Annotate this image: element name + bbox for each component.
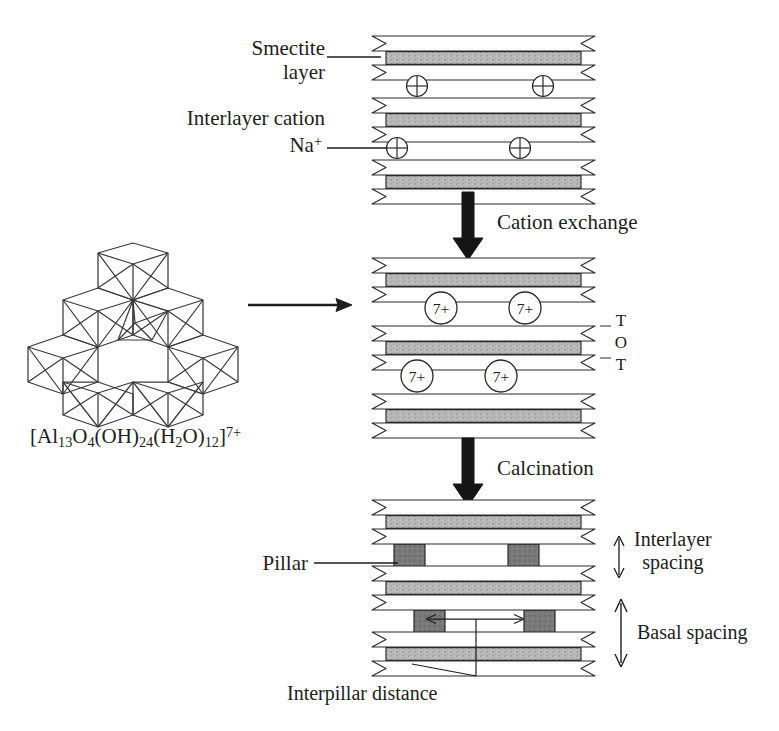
interlayer-cation-marker: [510, 138, 531, 159]
sodium-cation-label: Na+: [210, 133, 322, 158]
interpillar-distance-label: Interpillar distance: [287, 682, 438, 705]
interlayer-spacing-line2: spacing: [642, 551, 703, 573]
smectite-sheet: [372, 160, 595, 204]
smectite-sheet: [372, 632, 595, 676]
stage-smectite-na: [327, 36, 595, 204]
smectite-sheet: [372, 566, 595, 610]
keggin-charge-marker: 7+: [425, 292, 457, 324]
keggin-to-clay-arrow: [248, 299, 352, 312]
svg-text:7+: 7+: [517, 300, 534, 317]
smectite-layer-label: Smectite layer: [150, 36, 325, 85]
keggin-cluster-illustration: [28, 243, 238, 427]
keggin-charge-marker: 7+: [485, 360, 517, 392]
calcination-label: Calcination: [497, 456, 594, 480]
interlayer-cation-marker: [533, 76, 554, 97]
tot-letter-t-top: T: [616, 311, 627, 330]
interlayer-cation-marker: [387, 138, 408, 159]
smectite-sheet: [372, 326, 595, 370]
interlayer-cation-marker: [407, 76, 428, 97]
basal-spacing-label: Basal spacing: [637, 621, 748, 644]
stage-keggin-exchanged: 7+ 7+ 7+ 7+: [372, 258, 595, 438]
smectite-sheet: [372, 36, 595, 80]
svg-text:7+: 7+: [493, 368, 510, 385]
tot-letter-t-bottom: T: [616, 355, 627, 374]
tot-letter-o: O: [615, 333, 627, 352]
calcination-arrow: [453, 438, 483, 506]
smectite-layer-label-line2: layer: [283, 60, 325, 84]
keggin-formula-label: [Al13O4(OH)24(H2O)12]7+: [30, 424, 241, 451]
smectite-layer-label-line1: Smectite: [252, 36, 325, 60]
interlayer-spacing-line1: Interlayer: [634, 528, 712, 550]
smectite-sheet: [372, 500, 595, 544]
smectite-sheet: [372, 98, 595, 142]
smectite-sheet: [372, 394, 595, 438]
sodium-charge-superscript: +: [314, 133, 322, 149]
svg-text:7+: 7+: [409, 368, 426, 385]
smectite-sheet: [372, 258, 595, 302]
cation-exchange-label: Cation exchange: [497, 210, 638, 234]
keggin-charge-marker: 7+: [401, 360, 433, 392]
interlayer-spacing-label: Interlayer spacing: [634, 528, 712, 574]
pillar-label: Pillar: [180, 551, 308, 575]
keggin-charge-marker: 7+: [509, 292, 541, 324]
svg-text:7+: 7+: [433, 300, 450, 317]
interlayer-spacing-arrow: [614, 536, 624, 578]
basal-spacing-arrow: [615, 599, 627, 667]
tot-label: T O T: [608, 310, 634, 375]
interlayer-cation-label: Interlayer cation: [120, 106, 325, 130]
keggin-formula-text: [Al13O4(OH)24(H2O)12]7+: [30, 424, 241, 448]
stage-pillared-clay: [314, 500, 627, 676]
